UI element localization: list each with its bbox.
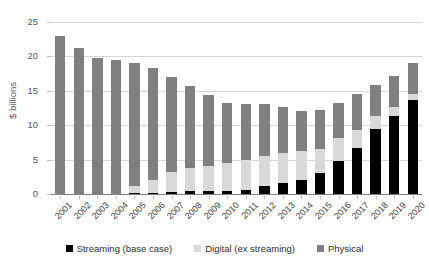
bar-group[interactable] [166, 77, 176, 194]
bar-segment[interactable] [185, 86, 195, 168]
bar-segment[interactable] [259, 104, 269, 156]
bar-segment[interactable] [185, 168, 195, 192]
bar-segment[interactable] [352, 94, 362, 130]
gridline [51, 91, 422, 92]
y-axis-tick-label: 5 [8, 155, 38, 165]
bar-segment[interactable] [166, 77, 176, 172]
bar-segment[interactable] [408, 63, 418, 94]
bar-segment[interactable] [55, 36, 65, 194]
x-axis-tick-mark [357, 196, 358, 199]
x-axis-tick-mark [60, 196, 61, 199]
bar-segment[interactable] [333, 138, 343, 160]
legend-item-label: Digital (ex streaming) [205, 243, 295, 254]
x-axis-tick-mark [227, 196, 228, 199]
bar-segment[interactable] [166, 172, 176, 192]
bar-segment[interactable] [222, 163, 232, 191]
bar-segment[interactable] [222, 103, 232, 164]
y-axis-tick-label: 15 [8, 86, 38, 96]
y-axis-tick-label: 20 [8, 51, 38, 61]
bar-group[interactable] [259, 104, 269, 194]
bar-segment[interactable] [315, 110, 325, 149]
bar-segment[interactable] [370, 129, 380, 194]
legend-swatch-physical [317, 245, 324, 252]
bar-segment[interactable] [315, 149, 325, 174]
bar-segment[interactable] [296, 151, 306, 180]
bar-group[interactable] [278, 107, 288, 194]
bar-segment[interactable] [296, 180, 306, 194]
bar-segment[interactable] [241, 104, 251, 160]
legend-item[interactable]: Physical [317, 243, 363, 254]
bottom-rule [0, 268, 429, 269]
y-axis-tick-mark [47, 125, 51, 126]
bar-segment[interactable] [278, 107, 288, 153]
bar-group[interactable] [408, 63, 418, 194]
legend-item-label: Streaming (base case) [77, 243, 173, 254]
bar-segment[interactable] [111, 60, 121, 194]
bar-group[interactable] [389, 76, 399, 194]
bar-group[interactable] [296, 111, 306, 194]
bar-segment[interactable] [74, 48, 84, 194]
gridline [51, 125, 422, 126]
bar-group[interactable] [185, 86, 195, 194]
y-axis-tick-mark [47, 56, 51, 57]
y-axis-tick-mark [47, 22, 51, 23]
bar-group[interactable] [241, 104, 251, 194]
bar-segment[interactable] [370, 85, 380, 116]
legend-item[interactable]: Digital (ex streaming) [194, 243, 295, 254]
bar-segment[interactable] [370, 116, 380, 128]
bar-segment[interactable] [278, 183, 288, 194]
bar-group[interactable] [203, 95, 213, 194]
x-axis-tick-mark [264, 196, 265, 199]
bar-segment[interactable] [241, 160, 251, 190]
bar-segment[interactable] [129, 186, 139, 193]
x-axis-tick-mark [339, 196, 340, 199]
bar-segment[interactable] [129, 63, 139, 186]
bar-segment[interactable] [148, 68, 158, 180]
bar-segment[interactable] [389, 116, 399, 194]
bar-group[interactable] [352, 94, 362, 194]
x-axis-tick-mark [190, 196, 191, 199]
bar-group[interactable] [315, 110, 325, 194]
bar-segment[interactable] [352, 148, 362, 194]
bar-group[interactable] [333, 103, 343, 194]
bar-segment[interactable] [203, 95, 213, 166]
x-axis-tick-mark [172, 196, 173, 199]
x-axis-tick-mark [116, 196, 117, 199]
chart-title [0, 0, 429, 2]
bar-segment[interactable] [296, 111, 306, 151]
bar-segment[interactable] [203, 166, 213, 191]
bar-segment[interactable] [408, 100, 418, 194]
bar-group[interactable] [111, 60, 121, 195]
gridline [51, 160, 422, 161]
bar-segment[interactable] [148, 180, 158, 192]
bar-segment[interactable] [92, 58, 102, 194]
bar-group[interactable] [55, 36, 65, 194]
bar-group[interactable] [222, 103, 232, 194]
x-axis-tick-mark [283, 196, 284, 199]
bar-group[interactable] [129, 63, 139, 194]
x-axis-tick-mark [413, 196, 414, 199]
bar-group[interactable] [74, 48, 84, 194]
bar-segment[interactable] [352, 130, 362, 148]
bar-group[interactable] [92, 58, 102, 194]
bar-segment[interactable] [389, 107, 399, 117]
bar-segment[interactable] [259, 156, 269, 186]
bar-segment[interactable] [315, 173, 325, 194]
x-axis-tick-mark [97, 196, 98, 199]
x-axis-tick-mark [246, 196, 247, 199]
bar-segment[interactable] [259, 186, 269, 194]
legend-swatch-streaming [66, 245, 73, 252]
y-axis-tick-label: 0 [8, 189, 38, 199]
bar-segment[interactable] [389, 76, 399, 106]
y-axis-tick-mark [47, 160, 51, 161]
x-axis-line [51, 194, 422, 195]
bar-segment[interactable] [333, 103, 343, 139]
gridline [51, 56, 422, 57]
legend-item[interactable]: Streaming (base case) [66, 243, 173, 254]
x-axis-tick-mark [153, 196, 154, 199]
bar-segment[interactable] [333, 161, 343, 194]
bar-group[interactable] [370, 85, 380, 194]
bar-segment[interactable] [278, 153, 288, 183]
x-axis-tick-mark [301, 196, 302, 199]
bar-group[interactable] [148, 68, 158, 194]
